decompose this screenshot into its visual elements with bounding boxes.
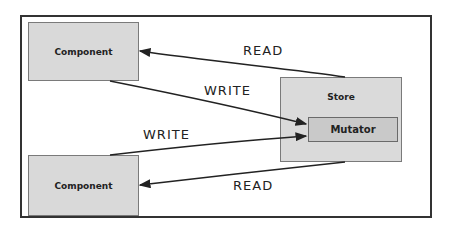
edges-layer (0, 0, 451, 235)
edge-label-write-top: WRITE (204, 83, 251, 98)
edge-label-write-bottom: WRITE (143, 127, 190, 142)
edge-label-read-top: READ (243, 43, 283, 58)
edge-write-bottom (110, 136, 306, 155)
edge-label-read-bottom: READ (233, 178, 273, 193)
